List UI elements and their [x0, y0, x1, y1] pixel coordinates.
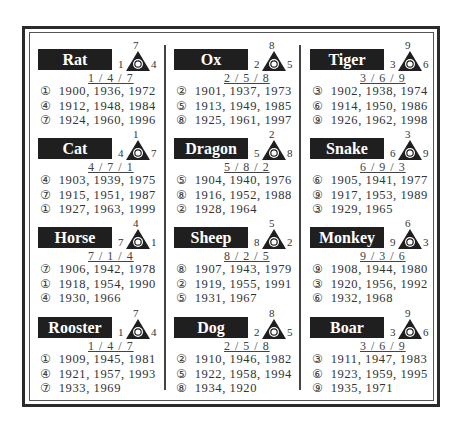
- year-row: ① 1909, 1945, 1981: [40, 352, 156, 367]
- year-values: 1909, 1945, 1981: [59, 352, 156, 366]
- triangle-left-number: 5: [254, 147, 260, 159]
- zodiac-cell-snake: Snake 3 6 9 6 / 9 / 3 ⑥ 1905, 1941, 1977…: [302, 121, 432, 211]
- triangle-left-number: 6: [390, 147, 396, 159]
- year-values: 1904, 1940, 1976: [195, 173, 292, 187]
- year-values: 1917, 1953, 1989: [331, 188, 428, 202]
- circled-number-icon: ⑤: [176, 173, 191, 188]
- year-values: 1912, 1948, 1984: [59, 99, 156, 113]
- year-values: 1933, 1969: [59, 381, 121, 395]
- triangle-diagram: 8 2 5: [254, 311, 294, 341]
- triangle-left-number: 4: [118, 147, 124, 159]
- circled-number-icon: ⑦: [40, 262, 55, 277]
- year-values: 1913, 1949, 1985: [195, 99, 292, 113]
- circled-number-icon: ④: [40, 367, 55, 382]
- year-row: ④ 1921, 1957, 1993: [40, 367, 156, 382]
- year-row: ⑧ 1916, 1952, 1988: [176, 188, 292, 203]
- column-divider-2: [299, 45, 301, 390]
- triangle-icon: [125, 228, 151, 250]
- zodiac-label: Horse: [38, 227, 112, 248]
- year-row: ③ 1902, 1938, 1974: [312, 84, 428, 99]
- triangle-diagram: 8 2 5: [254, 43, 294, 73]
- circled-number-icon: ⑨: [312, 188, 327, 203]
- zodiac-cell-rat: Rat 7 1 4 1 / 4 / 7 ① 1900, 1936, 1972 ④…: [30, 32, 160, 122]
- year-list: ② 1910, 1946, 1982 ⑤ 1922, 1958, 1994 ⑧ …: [176, 352, 292, 396]
- triangle-diagram: 7 1 4: [118, 43, 158, 73]
- triangle-icon: [261, 318, 287, 340]
- year-values: 1902, 1938, 1974: [331, 84, 428, 98]
- triangle-right-number: 5: [287, 326, 293, 338]
- year-row: ⑤ 1922, 1958, 1994: [176, 367, 292, 382]
- year-values: 1919, 1955, 1991: [195, 277, 292, 291]
- year-values: 1916, 1952, 1988: [195, 188, 292, 202]
- zodiac-cell-horse: Horse 4 7 1 7 / 1 / 4 ⑦ 1906, 1942, 1978…: [30, 210, 160, 300]
- triangle-icon: [125, 50, 151, 72]
- triangle-icon: [261, 139, 287, 161]
- circled-number-icon: ⑦: [40, 188, 55, 203]
- year-values: 1908, 1944, 1980: [331, 262, 428, 276]
- year-row: ⑥ 1923, 1959, 1995: [312, 367, 428, 382]
- year-row: ⑨ 1908, 1944, 1980: [312, 262, 428, 277]
- triangle-right-number: 3: [423, 236, 429, 248]
- circled-number-icon: ⑧: [176, 381, 191, 396]
- year-row: ⑧ 1934, 1920: [176, 381, 292, 396]
- year-row: ③ 1911, 1947, 1983: [312, 352, 428, 367]
- circled-number-icon: ⑧: [176, 262, 191, 277]
- triangle-right-number: 2: [287, 236, 293, 248]
- year-row: ⑤ 1913, 1949, 1985: [176, 99, 292, 114]
- circled-number-icon: ⑥: [312, 173, 327, 188]
- triangle-diagram: 4 7 1: [118, 221, 158, 251]
- triangle-icon: [261, 228, 287, 250]
- triangle-left-number: 2: [254, 58, 260, 70]
- zodiac-label: Boar: [310, 317, 384, 338]
- triangle-diagram: 5 8 2: [254, 221, 294, 251]
- zodiac-label: Tiger: [310, 49, 384, 70]
- triangle-diagram: 6 9 3: [390, 221, 430, 251]
- year-row: ③ 1920, 1956, 1992: [312, 277, 428, 292]
- year-values: 1900, 1936, 1972: [59, 84, 156, 98]
- triangle-icon: [125, 318, 151, 340]
- year-values: 1914, 1950, 1986: [331, 99, 428, 113]
- year-row: ② 1901, 1937, 1973: [176, 84, 292, 99]
- circled-number-icon: ⑤: [176, 367, 191, 382]
- year-values: 1907, 1943, 1979: [195, 262, 292, 276]
- year-row: ④ 1903, 1939, 1975: [40, 173, 156, 188]
- triangle-left-number: 3: [390, 58, 396, 70]
- circled-number-icon: ①: [40, 277, 55, 292]
- year-row: ① 1918, 1954, 1990: [40, 277, 156, 292]
- circled-number-icon: ③: [312, 84, 327, 99]
- year-values: 1915, 1951, 1987: [59, 188, 156, 202]
- triangle-diagram: 9 3 6: [390, 311, 430, 341]
- zodiac-cell-rooster: Rooster 7 1 4 1 / 4 / 7 ① 1909, 1945, 19…: [30, 300, 160, 390]
- triangle-icon: [397, 318, 423, 340]
- zodiac-cell-dragon: Dragon 2 5 8 5 / 8 / 2 ⑤ 1904, 1940, 197…: [166, 121, 296, 211]
- triangle-icon: [125, 139, 151, 161]
- triangle-diagram: 9 3 6: [390, 43, 430, 73]
- triangle-left-number: 7: [118, 236, 124, 248]
- year-list: ③ 1911, 1947, 1983 ⑥ 1923, 1959, 1995 ⑨ …: [312, 352, 428, 396]
- year-values: 1903, 1939, 1975: [59, 173, 156, 187]
- circled-number-icon: ②: [176, 277, 191, 292]
- circled-number-icon: ⑨: [312, 262, 327, 277]
- zodiac-cell-ox: Ox 8 2 5 2 / 5 / 8 ② 1901, 1937, 1973 ⑤ …: [166, 32, 296, 122]
- year-row: ⑤ 1904, 1940, 1976: [176, 173, 292, 188]
- year-list: ⑨ 1908, 1944, 1980 ③ 1920, 1956, 1992 ⑥ …: [312, 262, 428, 306]
- year-values: 1910, 1946, 1982: [195, 352, 292, 366]
- circled-number-icon: ⑥: [312, 367, 327, 382]
- triangle-left-number: 1: [118, 326, 124, 338]
- triangle-right-number: 1: [151, 236, 157, 248]
- zodiac-label: Sheep: [174, 227, 248, 248]
- triangle-icon: [397, 139, 423, 161]
- zodiac-label: Snake: [310, 138, 384, 159]
- year-list: ⑦ 1906, 1942, 1978 ① 1918, 1954, 1990 ④ …: [40, 262, 156, 306]
- zodiac-label: Cat: [38, 138, 112, 159]
- triangle-right-number: 7: [151, 147, 157, 159]
- circled-number-icon: ⑨: [312, 381, 327, 396]
- circled-number-icon: ①: [40, 352, 55, 367]
- circled-number-icon: ⑥: [312, 99, 327, 114]
- triangle-icon: [261, 50, 287, 72]
- zodiac-cell-dog: Dog 8 2 5 2 / 5 / 8 ② 1910, 1946, 1982 ⑤…: [166, 300, 296, 390]
- triangle-right-number: 6: [423, 326, 429, 338]
- triangle-diagram: 3 6 9: [390, 132, 430, 162]
- year-row: ⑥ 1905, 1941, 1977: [312, 173, 428, 188]
- zodiac-cell-cat: Cat 1 4 7 4 / 7 / 1 ④ 1903, 1939, 1975 ⑦…: [30, 121, 160, 211]
